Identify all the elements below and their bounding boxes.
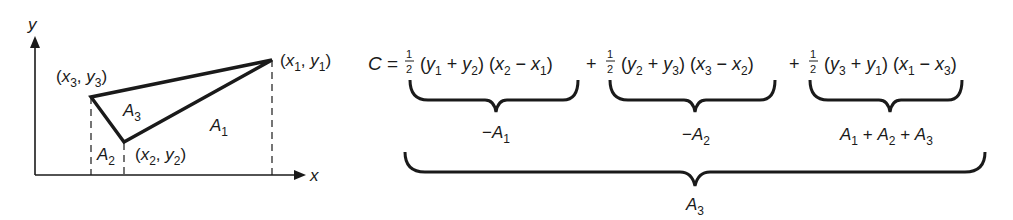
svg-text:2: 2 — [810, 63, 816, 75]
term-expression: (y2 + y3) (x3 − x2) — [621, 54, 754, 78]
underbrace-term-2 — [610, 80, 775, 112]
formula-term-2: 1 2 (y2 + y3) (x3 − x2) — [606, 48, 754, 78]
region-label-a2: A2 — [96, 145, 115, 168]
vertex-label-p1: (x1, y1) — [280, 51, 331, 74]
svg-text:2: 2 — [607, 63, 613, 75]
term-expression: (y1 + y2) (x2 − x1) — [420, 54, 553, 78]
coordinate-diagram: y x (x1, y1) (x3, y3) (x2, y2) A3 A1 A2 — [27, 15, 331, 185]
formula-term-3: 1 2 (y3 + y1) (x1 − x3) — [809, 48, 957, 78]
figure-canvas: y x (x1, y1) (x3, y3) (x2, y2) A3 A1 A2 … — [0, 0, 1013, 220]
vertex-label-p3: (x3, y3) — [56, 67, 107, 90]
underbrace-term-1 — [410, 80, 578, 112]
shoelace-formula: C = 1 2 (y1 + y2) (x2 − x1) + 1 2 (y2 + … — [368, 48, 985, 218]
y-axis-arrow-icon — [30, 36, 40, 48]
plus-operator: + — [789, 54, 800, 74]
formula-lhs: C = — [368, 53, 398, 74]
region-label-a1: A1 — [209, 116, 228, 139]
y-axis-label: y — [27, 15, 38, 34]
triangle — [91, 60, 272, 142]
fraction-numerator: 1 — [406, 48, 412, 60]
svg-text:1: 1 — [810, 48, 816, 60]
vertex-label-p2: (x2, y2) — [135, 145, 186, 168]
x-axis-label: x — [309, 166, 319, 185]
brace-label-term-2: −A2 — [682, 125, 710, 148]
fraction-denominator: 2 — [406, 63, 412, 75]
brace-label-term-3: A1 + A2 + A3 — [839, 125, 933, 148]
formula-term-1: 1 2 (y1 + y2) (x2 − x1) — [405, 48, 553, 78]
total-brace-label: A3 — [685, 195, 704, 218]
region-label-a3: A3 — [122, 101, 141, 124]
svg-text:1: 1 — [607, 48, 613, 60]
x-axis-arrow-icon — [294, 170, 306, 180]
plus-operator: + — [586, 54, 597, 74]
underbrace-total — [405, 152, 985, 186]
underbrace-term-3 — [810, 80, 962, 112]
brace-label-term-1: −A1 — [482, 123, 510, 146]
term-expression: (y3 + y1) (x1 − x3) — [824, 54, 957, 78]
